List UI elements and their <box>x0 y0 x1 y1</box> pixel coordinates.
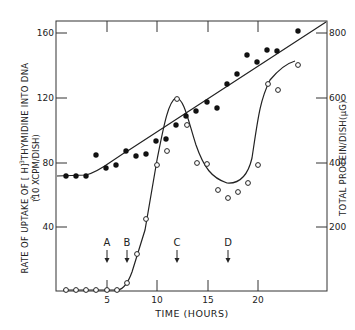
annotation-a-arrow-icon <box>105 258 110 263</box>
x-axis-tick-labels: 5 10 15 20 <box>104 295 264 305</box>
x-tick-5: 5 <box>104 295 110 305</box>
y-tick-120: 120 <box>37 93 54 103</box>
y-tick-80: 80 <box>43 158 55 168</box>
annotation-c-arrow-icon <box>175 258 180 263</box>
x-tick-10: 10 <box>151 295 163 305</box>
y-tick-160: 160 <box>37 28 54 38</box>
y2-tick-800: 800 <box>329 28 346 38</box>
thymidine-fit-curve <box>63 61 295 290</box>
annotation-d-label: D <box>224 237 232 248</box>
y2-tick-200: 200 <box>329 222 346 232</box>
svg-text:TOTAL PROTEIN/DISH(µG): TOTAL PROTEIN/DISH(µG) <box>338 100 348 217</box>
x-tick-15: 15 <box>202 295 213 305</box>
annotation-b-label: B <box>124 237 131 248</box>
annotation-d-arrow-icon <box>226 258 231 263</box>
svg-text:RATE OF UPTAKE OF [ H] THYMIDI: RATE OF UPTAKE OF [ H] THYMIDINE INTO DN… <box>20 63 30 274</box>
y2-axis-ticks <box>316 33 327 227</box>
top-ticks <box>107 21 258 32</box>
annotation-a-label: A <box>104 237 111 248</box>
annotation-c-label: C <box>174 237 181 248</box>
svg-text:(10 XCPM/DISH): (10 XCPM/DISH) <box>31 134 41 201</box>
y-axis-units-superscript: -2 <box>29 196 36 202</box>
annotation-b-arrow-icon <box>125 258 130 263</box>
y2-axis-label: TOTAL PROTEIN/DISH(µG) <box>338 100 348 217</box>
chart: 5 10 15 20 TIME (HOURS) 160 120 80 40 80… <box>0 0 355 330</box>
x-tick-20: 20 <box>252 295 264 305</box>
annotations: A B C D <box>104 237 233 263</box>
y-axis-ticks <box>56 33 67 227</box>
thymidine-series <box>64 63 301 293</box>
y-axis-label-superscript: 3 <box>18 160 25 164</box>
y-tick-40: 40 <box>43 222 55 232</box>
x-axis-label: TIME (HOURS) <box>154 308 228 319</box>
x-axis-ticks <box>107 280 258 291</box>
